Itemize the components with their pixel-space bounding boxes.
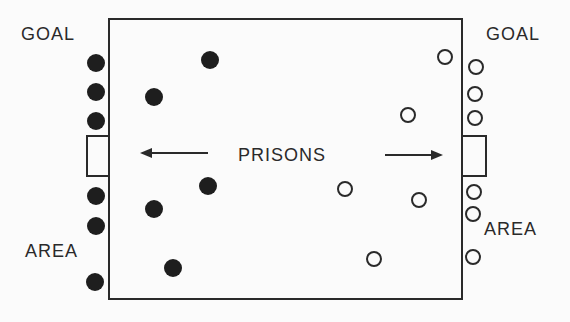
- hollow-player-marker: [467, 86, 483, 102]
- hollow-player-marker: [437, 49, 453, 65]
- goal-label-left: GOAL: [21, 24, 75, 45]
- filled-player-marker: [145, 88, 163, 106]
- left-arrow-shaft: [146, 152, 208, 154]
- right-arrow-shaft: [385, 154, 433, 156]
- filled-player-marker: [164, 259, 182, 277]
- prisons-label: PRISONS: [238, 145, 326, 166]
- hollow-player-marker: [468, 59, 484, 75]
- filled-player-marker: [87, 54, 105, 72]
- hollow-player-marker: [400, 107, 416, 123]
- left-arrow-head-icon: [140, 148, 152, 158]
- hollow-player-marker: [466, 184, 482, 200]
- hollow-player-marker: [465, 206, 481, 222]
- filled-player-marker: [87, 112, 105, 130]
- left-prison: [86, 135, 110, 177]
- area-label-left: AREA: [25, 241, 78, 262]
- goal-label-right: GOAL: [486, 24, 540, 45]
- right-arrow-head-icon: [431, 150, 443, 160]
- right-prison: [461, 135, 487, 177]
- filled-player-marker: [87, 83, 105, 101]
- area-label-right: AREA: [484, 219, 537, 240]
- filled-player-marker: [87, 217, 105, 235]
- hollow-player-marker: [366, 251, 382, 267]
- filled-player-marker: [199, 177, 217, 195]
- filled-player-marker: [145, 200, 163, 218]
- hollow-player-marker: [467, 110, 483, 126]
- hollow-player-marker: [465, 249, 481, 265]
- filled-player-marker: [86, 273, 104, 291]
- hollow-player-marker: [337, 181, 353, 197]
- hollow-player-marker: [411, 192, 427, 208]
- filled-player-marker: [87, 187, 105, 205]
- filled-player-marker: [201, 51, 219, 69]
